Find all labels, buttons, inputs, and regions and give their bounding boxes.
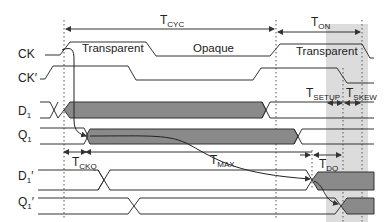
phase-label-transparent-2: Transparent bbox=[296, 45, 358, 57]
signal-labels: CK CK′ D1 Q1 D1′ Q1′ bbox=[18, 47, 38, 211]
tcyc-label: TCYC bbox=[160, 13, 184, 29]
timing-diagram: TCYC TON CK CK′ D1 Q1 D1′ Q1′ Transparen… bbox=[0, 0, 391, 222]
tmax-label: TMAX bbox=[210, 153, 235, 169]
tcyc-annotation: TCYC bbox=[66, 13, 274, 29]
waveform-d1-prime bbox=[38, 170, 374, 190]
signal-label-ck: CK bbox=[18, 47, 35, 61]
ton-label: TON bbox=[311, 15, 331, 31]
phase-label-opaque: Opaque bbox=[193, 42, 234, 54]
signal-label-ck-prime: CK′ bbox=[18, 71, 38, 85]
waveform-d1 bbox=[40, 102, 374, 118]
tckq-label: TCKQ bbox=[72, 155, 97, 171]
waveform-q1-prime bbox=[38, 198, 374, 214]
tckq-annotation: TCKQ bbox=[64, 152, 312, 171]
signal-label-d1: D1 bbox=[18, 104, 32, 120]
waveform-ck-prime bbox=[40, 66, 374, 83]
signal-label-q1: Q1 bbox=[18, 128, 32, 144]
signal-label-q1-prime: Q1′ bbox=[18, 195, 35, 211]
signal-label-d1-prime: D1′ bbox=[18, 169, 34, 185]
phase-label-transparent-1: Transparent bbox=[82, 42, 144, 54]
